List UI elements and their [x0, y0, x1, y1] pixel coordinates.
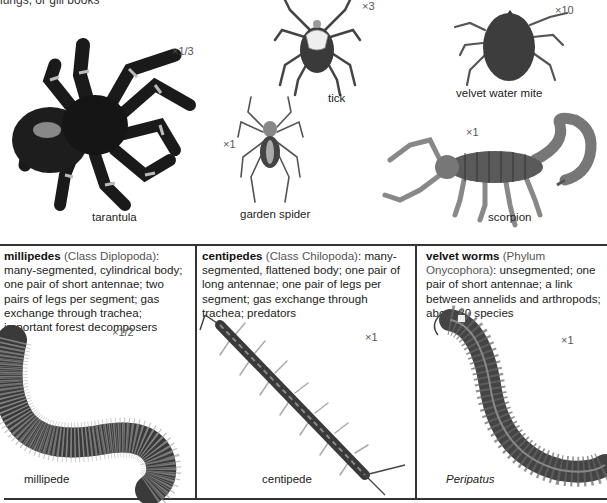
tick-label: tick: [328, 92, 345, 104]
millipedes-class: (Class Diplopoda): [64, 249, 156, 262]
scorpion-scale: ×1: [466, 126, 479, 138]
tarantula-illustration: [5, 25, 195, 210]
millipede-label: millipede: [24, 473, 69, 485]
millipede-illustration: [0, 330, 195, 495]
tick-illustration: [270, 0, 365, 95]
centipedes-title: centipedes: [202, 249, 263, 262]
top-divider: [0, 244, 607, 246]
velvet-water-mite-illustration: [455, 5, 570, 90]
garden-spider-scale: ×1: [223, 138, 236, 150]
centipedes-class: (Class Chilopoda): [266, 249, 358, 262]
column-divider-1: [195, 244, 197, 499]
peripatus-label: Peripatus: [446, 473, 495, 485]
cut-off-caption: lungs, or gill books: [0, 0, 99, 7]
velvet-water-mite-scale: ×10: [555, 4, 574, 16]
centipede-illustration: [200, 305, 410, 500]
tarantula-scale: ×1/3: [172, 45, 194, 57]
millipedes-description: millipedes (Class Diplopoda): many-segme…: [4, 249, 192, 334]
millipedes-title: millipedes: [4, 249, 61, 262]
column-divider-2: [415, 244, 417, 499]
scorpion-label: scorpion: [488, 211, 531, 223]
tick-scale: ×3: [362, 0, 375, 12]
peripatus-illustration: [430, 305, 607, 495]
velvet-worms-title: velvet worms: [426, 249, 499, 262]
tarantula-label: tarantula: [92, 211, 137, 223]
garden-spider-illustration: [233, 97, 308, 207]
velvet-water-mite-label: velvet water mite: [456, 87, 542, 99]
centipede-label: centipede: [262, 473, 312, 485]
garden-spider-label: garden spider: [240, 208, 310, 220]
